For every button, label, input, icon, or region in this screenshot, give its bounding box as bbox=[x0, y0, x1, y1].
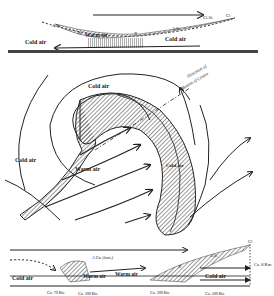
warm-flow-arrow-5 bbox=[125, 215, 150, 223]
label-dist-2: Ca. 200 Km. bbox=[78, 291, 98, 296]
label-dist-3: Ca. 300 Km. bbox=[150, 290, 170, 295]
label-cold-air-left: Cold air bbox=[15, 157, 37, 163]
label-cold-air-left: Cold air bbox=[12, 275, 34, 281]
plan-view: Direction of Motion of Centre Cold air C… bbox=[5, 63, 252, 235]
label-cold-air-left: Cold air bbox=[25, 39, 47, 45]
ground-surface bbox=[8, 50, 258, 53]
warm-front-cloud bbox=[150, 245, 250, 282]
warm-flow-arrow-2 bbox=[62, 145, 140, 180]
label-as: A.St. bbox=[209, 253, 218, 258]
label-warm-air: Warm air bbox=[85, 32, 109, 38]
label-warm-air-2: Warm air bbox=[115, 271, 139, 277]
label-cirro: Ci.St. bbox=[203, 15, 213, 20]
label-ci: Ci bbox=[248, 239, 253, 244]
label-cu: A Cu (lent.) bbox=[91, 255, 114, 260]
warm-flow-arrow-4 bbox=[75, 190, 152, 220]
cyclone-diagram: Cold air Warm air Cold air A.St. A.St. C… bbox=[0, 0, 274, 296]
bottom-cross-section: Cold air Warm air Warm air Cold air A Cu… bbox=[10, 239, 273, 296]
label-dist-4: Ca. 500 Km. bbox=[205, 291, 225, 296]
label-warm-air: Warm air bbox=[75, 166, 100, 172]
label-ci: Ci bbox=[226, 13, 231, 18]
top-cross-section: Cold air Warm air Cold air A.St. A.St. C… bbox=[8, 13, 258, 53]
cloud-mass bbox=[55, 18, 235, 38]
label-cold-air-right: Cold air bbox=[205, 273, 227, 279]
label-dist-1: Ca. 70 Km. bbox=[47, 290, 65, 295]
label-cold-air-top: Cold air bbox=[88, 83, 110, 89]
outflow-arrow-1 bbox=[210, 138, 250, 180]
label-warm-air-1: Warm air bbox=[83, 273, 107, 279]
outflow-arrow-2 bbox=[190, 172, 252, 217]
cold-front-surface bbox=[10, 260, 55, 270]
frontal-surface bbox=[42, 18, 235, 36]
label-as-right: A.St. bbox=[171, 26, 181, 31]
label-cold-air-shaded: Cold air bbox=[166, 163, 184, 168]
label-as-left: A.St. bbox=[51, 23, 61, 28]
label-cold-air-right: Cold air bbox=[165, 36, 187, 42]
isobar-outer-left bbox=[19, 75, 48, 190]
label-height: Ca. 8 Km. bbox=[254, 262, 273, 267]
